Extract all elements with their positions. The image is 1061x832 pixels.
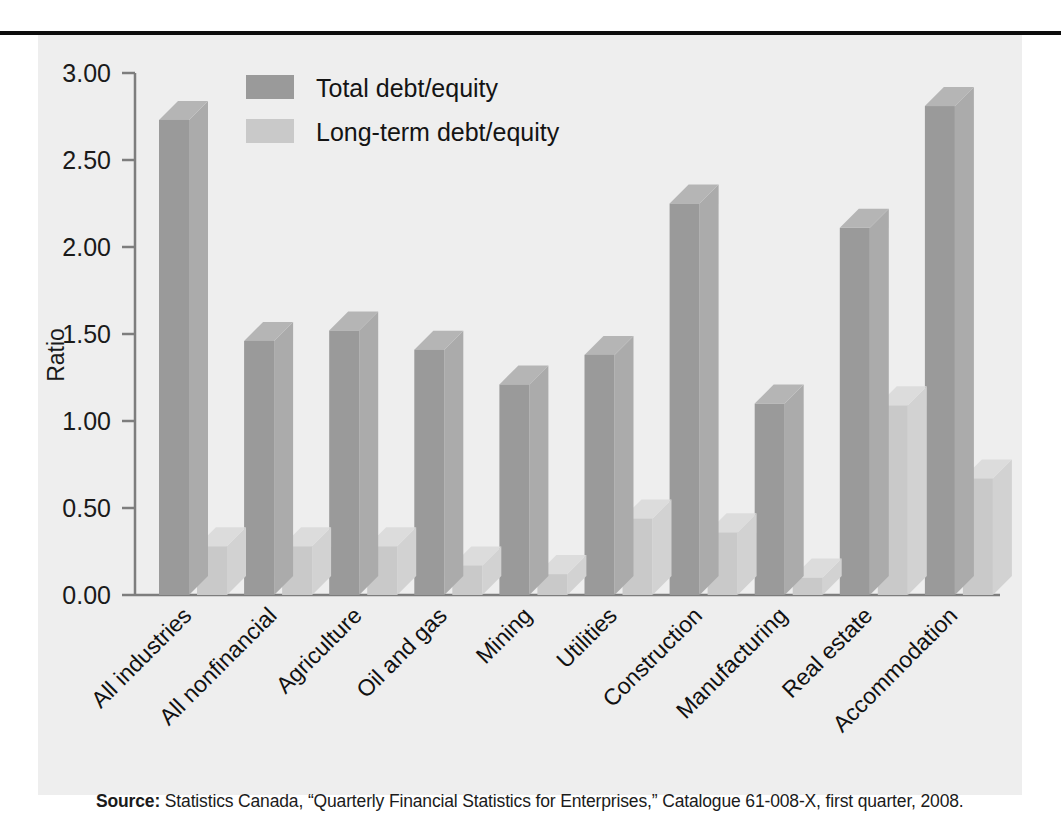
category-label-5: Utilities [551, 602, 622, 673]
bar-total-3-front [414, 350, 444, 595]
y-axis-tick-label: 3.00 [62, 59, 111, 87]
y-axis-tick-label: 0.50 [62, 494, 111, 522]
bar-total-0-front [159, 120, 189, 595]
bar-total-1 [244, 322, 293, 595]
bar-total-8 [840, 209, 889, 595]
y-axis-tick-label: 2.50 [62, 146, 111, 174]
figure-page: 0.000.501.001.502.002.503.00Ratio All in… [0, 0, 1061, 832]
bar-total-2 [329, 312, 378, 595]
bar-total-5-side [615, 336, 634, 595]
legend-label-0[interactable]: Total debt/equity [316, 74, 499, 102]
bar-total-9 [925, 87, 974, 595]
bar-total-7 [755, 385, 804, 595]
bar-chart: 0.000.501.001.502.002.503.00Ratio All in… [38, 35, 1022, 795]
bar-total-1-side [274, 322, 293, 595]
source-label: Source: [96, 791, 160, 811]
bar-total-7-side [785, 385, 804, 595]
category-labels-group: All industriesAll nonfinancialAgricultur… [86, 602, 962, 737]
bar-longterm-9-side [993, 459, 1012, 595]
legend-label-1[interactable]: Long-term debt/equity [316, 118, 560, 146]
chart-svg: 0.000.501.001.502.002.503.00Ratio All in… [38, 35, 1022, 795]
y-axis-title: Ratio [43, 328, 69, 382]
bar-total-8-front [840, 228, 870, 595]
bar-total-4 [499, 365, 548, 595]
bar-total-6-side [700, 185, 719, 596]
legend-swatch-0[interactable] [246, 75, 294, 99]
y-axis-tick-label: 0.00 [62, 581, 111, 609]
bar-total-0 [159, 101, 208, 595]
category-label-4: Mining [471, 602, 537, 668]
bar-total-6 [670, 185, 719, 596]
bar-total-0-side [189, 101, 208, 595]
bar-total-2-front [329, 331, 359, 595]
bar-total-6-front [670, 204, 700, 596]
y-axis-tick-label: 1.50 [62, 320, 111, 348]
bar-total-8-side [870, 209, 889, 595]
bars-group [159, 87, 1012, 595]
bar-total-4-front [499, 384, 529, 595]
legend-swatch-1[interactable] [246, 119, 294, 143]
bar-total-9-side [955, 87, 974, 595]
legend: Total debt/equityLong-term debt/equity [246, 74, 560, 146]
source-text: Statistics Canada, “Quarterly Financial … [160, 791, 963, 811]
figure-panel: 0.000.501.001.502.002.503.00Ratio All in… [38, 35, 1022, 795]
bar-total-9-front [925, 106, 955, 595]
bar-total-3-side [444, 331, 463, 595]
source-note: Source: Statistics Canada, “Quarterly Fi… [96, 791, 1046, 812]
bar-longterm-8-side [908, 386, 927, 595]
bar-total-5-front [585, 355, 615, 595]
bar-total-2-side [359, 312, 378, 595]
y-axis-tick-label: 1.00 [62, 407, 111, 435]
bar-total-4-side [529, 365, 548, 595]
category-label-3: Oil and gas [351, 602, 452, 703]
bar-total-1-front [244, 341, 274, 595]
bar-total-7-front [755, 404, 785, 595]
y-axis-tick-label: 2.00 [62, 233, 111, 261]
bar-total-3 [414, 331, 463, 595]
bar-total-5 [585, 336, 634, 595]
